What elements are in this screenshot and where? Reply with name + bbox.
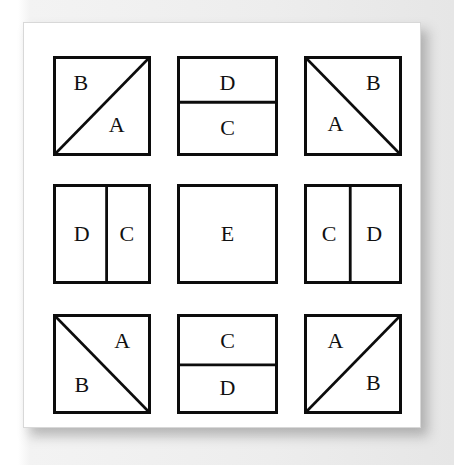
- tile-label: B: [74, 374, 89, 396]
- divider-diagonal-tl-br-icon: [307, 59, 399, 153]
- tile-label: A: [328, 330, 344, 352]
- tile-label: B: [366, 372, 381, 394]
- tile-label: E: [221, 223, 234, 245]
- tile-cell-7: A B: [53, 314, 151, 414]
- tile-label: A: [114, 330, 130, 352]
- divider-diagonal-tl-br-icon: [56, 317, 148, 411]
- tile-label: C: [220, 117, 235, 139]
- tile-label: D: [74, 223, 90, 245]
- tile-label: D: [220, 72, 236, 94]
- tile-cell-4: D C: [53, 184, 151, 284]
- tile-label: C: [322, 223, 337, 245]
- tile-label: D: [366, 223, 382, 245]
- tile-cell-1: B A: [53, 56, 151, 156]
- figure-canvas: B A D C B A D: [0, 0, 454, 465]
- tile-cell-2: D C: [177, 56, 278, 156]
- tile-label: A: [109, 114, 125, 136]
- tile-cell-5: E: [177, 184, 278, 284]
- tile-label: C: [220, 330, 235, 352]
- divider-diagonal-bl-tr-icon: [56, 59, 148, 153]
- tile-cell-3: B A: [304, 56, 402, 156]
- divider-vertical-icon: [56, 187, 148, 281]
- divider-diagonal-bl-tr-icon: [307, 317, 399, 411]
- tile-label: C: [119, 223, 134, 245]
- tile-label: D: [220, 377, 236, 399]
- tile-cell-9: A B: [304, 314, 402, 414]
- tile-label: B: [73, 72, 88, 94]
- tile-cell-6: C D: [304, 184, 402, 284]
- tile-grid: B A D C B A D: [24, 23, 422, 429]
- figure-page: B A D C B A D: [23, 22, 421, 428]
- tile-label: A: [328, 113, 344, 135]
- tile-label: B: [366, 72, 381, 94]
- tile-cell-8: C D: [177, 314, 278, 414]
